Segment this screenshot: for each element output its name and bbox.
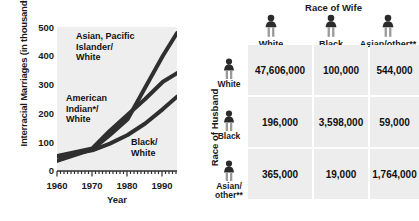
- x-tick-label: 1980: [107, 180, 147, 191]
- series-label-black-white: Black/ White: [131, 137, 158, 158]
- y-tick-label: 500: [28, 23, 54, 32]
- table-cell: 59,000: [370, 97, 419, 147]
- series-label-line: Asian, Pacific: [76, 31, 135, 41]
- female-figure-icon: [380, 14, 396, 38]
- row-header-black: Black: [208, 110, 250, 141]
- y-tick-label: 200: [28, 109, 54, 118]
- series-label-line: White: [66, 114, 91, 124]
- column-header-asian-other: Asian/other**: [357, 14, 419, 49]
- column-header-white: White: [240, 14, 302, 49]
- series-label-line: White: [76, 52, 101, 62]
- male-figure-icon: [221, 110, 237, 132]
- race-of-husband-wife-matrix: Race of Wife Race of Husband White Black…: [190, 0, 419, 221]
- table-cell: 3,598,000: [314, 97, 368, 147]
- column-header-black: Black: [300, 14, 362, 49]
- series-label-asian-pacific-islander-white: Asian, Pacific Islander/ White: [76, 31, 135, 63]
- table-cell: 365,000: [248, 149, 312, 199]
- series-label-line: Black/: [131, 137, 158, 147]
- x-tick-label: 1990: [142, 180, 182, 191]
- series-label-american-indian-white: American Indian*/ White: [66, 93, 107, 125]
- y-tick-label: 100: [28, 138, 54, 147]
- series-label-line: American: [66, 93, 107, 103]
- x-tick-label: 1970: [72, 180, 112, 191]
- x-axis-title: Year: [57, 194, 177, 205]
- interracial-marriages-line-chart: Interracial Marriages (in thousands) 500…: [0, 0, 190, 221]
- table-cell: 544,000: [370, 45, 419, 95]
- table-cell: 100,000: [314, 45, 368, 95]
- male-figure-icon: [221, 160, 237, 182]
- male-figure-icon: [221, 58, 237, 80]
- x-axis: [50, 170, 186, 180]
- row-header-label: other**: [208, 191, 250, 200]
- series-label-line: Islander/: [76, 42, 113, 52]
- table-cell: 47,606,000: [248, 45, 312, 95]
- female-figure-icon: [263, 14, 279, 38]
- row-header-label: Black: [208, 132, 250, 141]
- female-figure-icon: [323, 14, 339, 38]
- table-cell: 19,000: [314, 149, 368, 199]
- series-label-line: Indian*/: [66, 104, 99, 114]
- series-label-line: White: [131, 148, 156, 158]
- row-header-label: White: [208, 80, 250, 89]
- x-tick-label: 1960: [37, 180, 77, 191]
- row-header-white: White: [208, 58, 250, 89]
- row-header-asian-other: Asian/ other**: [208, 160, 250, 200]
- table-cell: 1,764,000: [370, 149, 419, 199]
- race-of-wife-title: Race of Wife: [248, 2, 419, 13]
- table-cell: 196,000: [248, 97, 312, 147]
- y-tick-label: 400: [28, 51, 54, 60]
- y-tick-label: 300: [28, 80, 54, 89]
